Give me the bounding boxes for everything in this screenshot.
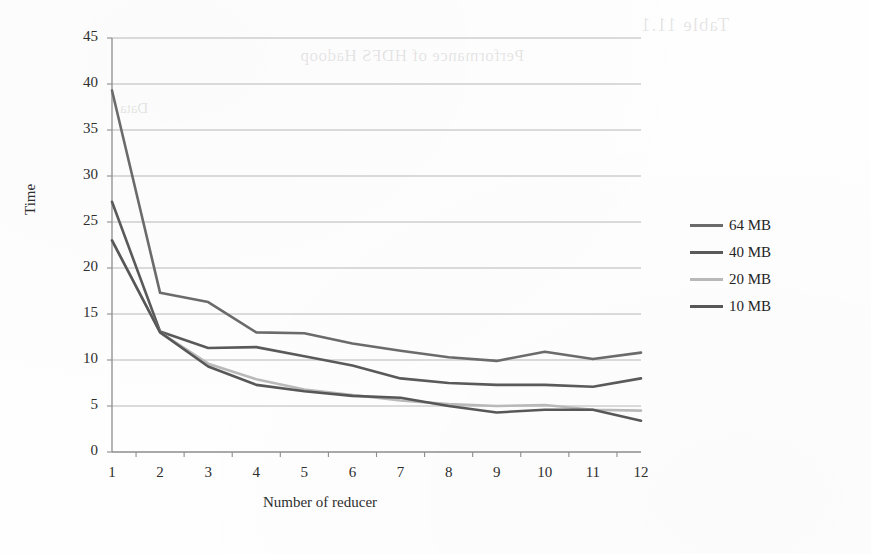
legend-item-10-mb[interactable]: 10 MB bbox=[690, 293, 771, 320]
x-tick-label: 5 bbox=[284, 464, 324, 481]
legend-swatch-icon bbox=[690, 224, 723, 227]
x-tick-label: 11 bbox=[573, 464, 613, 481]
x-tick-label: 9 bbox=[477, 464, 517, 481]
y-axis-title: Time bbox=[22, 184, 39, 215]
x-tick-label: 6 bbox=[332, 464, 372, 481]
legend-swatch-icon bbox=[690, 305, 723, 308]
x-tick-label: 2 bbox=[140, 464, 180, 481]
x-tick-label: 10 bbox=[525, 464, 565, 481]
legend-label: 20 MB bbox=[729, 271, 771, 288]
x-tick-label: 8 bbox=[429, 464, 469, 481]
legend-item-40-mb[interactable]: 40 MB bbox=[690, 239, 771, 266]
legend-label: 40 MB bbox=[729, 244, 771, 261]
chart-legend: 64 MB40 MB20 MB10 MB bbox=[690, 212, 771, 320]
legend-label: 10 MB bbox=[729, 298, 771, 315]
legend-label: 64 MB bbox=[729, 217, 771, 234]
legend-item-20-mb[interactable]: 20 MB bbox=[690, 266, 771, 293]
x-tick-label: 1 bbox=[92, 464, 132, 481]
x-tick-label: 3 bbox=[188, 464, 228, 481]
x-tick-label: 12 bbox=[621, 464, 661, 481]
x-tick-label: 4 bbox=[236, 464, 276, 481]
legend-swatch-icon bbox=[690, 278, 723, 281]
x-tick-label: 7 bbox=[381, 464, 421, 481]
legend-item-64-mb[interactable]: 64 MB bbox=[690, 212, 771, 239]
x-axis-title: Number of reducer bbox=[0, 494, 640, 511]
legend-swatch-icon bbox=[690, 251, 723, 254]
